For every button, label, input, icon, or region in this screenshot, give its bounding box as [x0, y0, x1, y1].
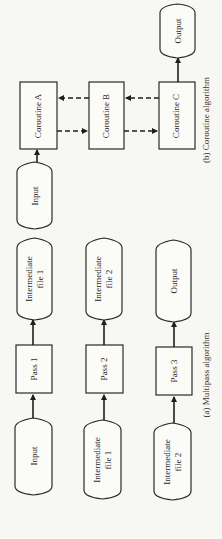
pass1-label: Pass 1: [29, 358, 39, 381]
coroutine-b-node: Coroutine B: [89, 82, 124, 149]
coroutine-input-label: Input: [30, 186, 40, 205]
coroutine-output-node: Output: [160, 4, 195, 58]
coroutine-input-node: Input: [17, 162, 52, 229]
coroutine-c-node: Coroutine C: [159, 82, 195, 149]
pass2-target-label-line1: Intermediate: [93, 256, 103, 301]
multipass-row-2: Intermediate file 1 Pass 2 Intermediate …: [84, 238, 123, 499]
pass1-source-label: Input: [29, 446, 39, 465]
pass1-node: Pass 1: [16, 345, 52, 393]
coroutine-output-label: Output: [173, 18, 183, 44]
pass2-target-label-line2: file 2: [104, 270, 114, 289]
pass2-node: Pass 2: [86, 345, 123, 393]
pass1-source-node: Input: [15, 418, 52, 495]
pass3-node: Pass 3: [156, 347, 192, 395]
pass2-source-label-line2: file 1: [103, 451, 113, 470]
pass2-label: Pass 2: [99, 358, 109, 381]
pass3-source-label-line2: file 2: [173, 453, 183, 472]
pass3-source-label-line1: Intermediate: [162, 439, 172, 484]
coroutine-b-label: Coroutine B: [101, 94, 111, 138]
multipass-diagram: Input Pass 1 Intermediate file 1 Interme…: [15, 238, 211, 500]
coroutine-diagram: Input Coroutine A Coroutine B Coroutine …: [17, 4, 211, 229]
pass3-target-node: Output: [156, 240, 191, 322]
pass3-target-label: Output: [169, 268, 179, 294]
multipass-caption: (a) Multipass algorithm: [201, 333, 211, 418]
pass3-source-node: Intermediate file 2: [154, 423, 191, 500]
coroutine-c-label: Coroutine C: [171, 94, 181, 138]
diagram-canvas: Input Coroutine A Coroutine B Coroutine …: [0, 0, 222, 539]
pass2-target-node: Intermediate file 2: [86, 238, 122, 320]
coroutine-a-node: Coroutine A: [20, 82, 57, 149]
pass1-target-node: Intermediate file 1: [17, 238, 52, 320]
multipass-row-3: Intermediate file 2 Pass 3 Output: [154, 240, 192, 500]
pass3-label: Pass 3: [169, 359, 179, 382]
pass2-source-label-line1: Intermediate: [92, 437, 102, 482]
pass1-target-label-line1: Intermediate: [24, 256, 34, 301]
coroutine-caption: (b) Coroutine algorithm: [201, 77, 211, 163]
coroutine-a-label: Coroutine A: [33, 93, 43, 138]
pass2-source-node: Intermediate file 1: [84, 420, 121, 499]
pass1-target-label-line2: file 1: [35, 270, 45, 289]
multipass-row-1: Input Pass 1 Intermediate file 1: [15, 238, 52, 495]
